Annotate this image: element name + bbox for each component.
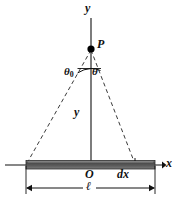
dimension-arrowhead-left [26,185,32,191]
y-axis-label: y [85,2,90,14]
theta-label: θ [92,66,98,77]
point-p-dot [87,45,94,52]
length-ell-label: ℓ [86,180,91,192]
theta-zero-label: θ0 [64,66,74,79]
dimension-arrowhead-right [149,185,155,191]
left-field-line [27,50,92,164]
theta-zero-subscript: 0 [70,70,74,79]
x-axis-label: x [166,157,172,169]
figure-canvas: y P θ0 θ y O dx x ℓ [0,0,178,200]
dx-element-label: dx [117,168,129,180]
point-p-label: P [97,38,104,50]
distance-y-label: y [74,106,79,118]
